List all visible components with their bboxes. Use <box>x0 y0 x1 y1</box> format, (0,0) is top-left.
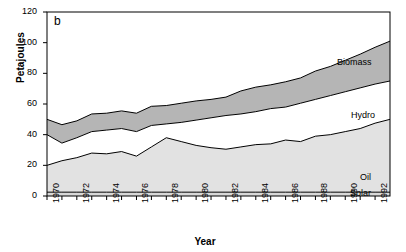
x-tick-label: 1974 <box>111 183 121 203</box>
y-tick-label: 100 <box>7 37 37 47</box>
y-tick-label: 60 <box>7 98 37 108</box>
y-tick-label: 20 <box>7 159 37 169</box>
series-label-biomass: Biomass <box>337 57 372 67</box>
x-tick-label: 1972 <box>81 183 91 203</box>
x-tick-label: 1978 <box>170 183 180 203</box>
x-tick-label: 1988 <box>319 183 329 203</box>
panel-label: b <box>54 14 61 28</box>
y-tick-label: 120 <box>7 6 37 16</box>
x-tick-label: 1986 <box>290 183 300 203</box>
area-solar <box>47 192 390 196</box>
x-tick-label: 1992 <box>379 183 389 203</box>
stacked-area-chart <box>0 0 406 252</box>
chart-figure: Petajoules Year b 020406080100120 197019… <box>0 0 406 252</box>
y-tick-label: 80 <box>7 67 37 77</box>
y-tick-label: 0 <box>7 190 37 200</box>
series-label-hydro: Hydro <box>351 110 375 120</box>
x-tick-label: 1970 <box>51 183 61 203</box>
series-label-solar: Solar <box>350 188 371 198</box>
x-axis-title: Year <box>150 236 260 247</box>
y-axis-title: Petajoules <box>15 10 26 106</box>
series-label-oil: Oil <box>360 172 371 182</box>
x-tick-label: 1980 <box>200 183 210 203</box>
y-tick-label: 40 <box>7 129 37 139</box>
x-tick-label: 1976 <box>140 183 150 203</box>
x-tick-label: 1982 <box>230 183 240 203</box>
x-tick-label: 1984 <box>260 183 270 203</box>
